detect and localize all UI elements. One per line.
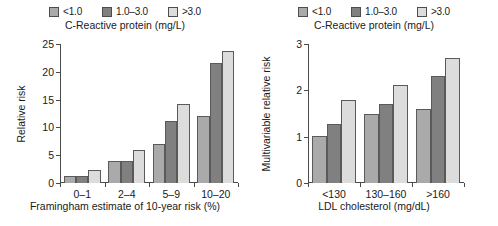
bar [393, 85, 408, 183]
chart-panel-left: <1.0 1.0–3.0 >3.0 C-Reactive protein (mg… [0, 0, 250, 226]
y-axis-label: Multivariable relative risk [260, 56, 272, 171]
bar [88, 170, 100, 183]
x-axis-tick [60, 183, 61, 187]
legend-item-label: <1.0 [63, 7, 82, 17]
bar [165, 121, 177, 183]
legend-swatch-icon [49, 7, 59, 17]
legend-item-label: >3.0 [431, 7, 450, 17]
legend-swatch-icon [417, 7, 427, 17]
figure: <1.0 1.0–3.0 >3.0 C-Reactive protein (mg… [0, 0, 498, 226]
legend-item-label: 1.0–3.0 [116, 7, 148, 17]
x-axis-tick [194, 183, 195, 187]
y-axis-tick-label: 10 [42, 122, 54, 133]
legend-item: <1.0 [49, 7, 82, 17]
y-axis-tick [56, 100, 60, 101]
legend-item: 1.0–3.0 [351, 7, 397, 17]
plot-area-left: 05101520250–12–45–910–20 [60, 44, 238, 183]
x-axis-tick-label: 0–1 [73, 189, 91, 200]
bar [445, 58, 460, 183]
bar [431, 76, 446, 183]
y-axis-tick-label: 20 [42, 67, 54, 78]
y-axis-tick-label: 15 [42, 94, 54, 105]
bar [153, 144, 165, 183]
legend-swatch-icon [168, 7, 178, 17]
x-axis-tick-label: 5–9 [162, 189, 180, 200]
x-axis-tick [412, 183, 413, 187]
y-axis-tick-label: 25 [42, 39, 54, 50]
legend-swatch-icon [102, 7, 112, 17]
legend-item: >3.0 [417, 7, 450, 17]
x-axis-tick [464, 183, 465, 187]
y-axis-tick-label: 5 [48, 150, 54, 161]
bar [222, 51, 234, 183]
bar [312, 136, 327, 183]
y-axis-tick [304, 90, 308, 91]
bar [364, 114, 379, 184]
x-axis-tick-label: 2–4 [118, 189, 136, 200]
chart-panel-right: <1.0 1.0–3.0 >3.0 C-Reactive protein (mg… [250, 0, 498, 226]
bar [177, 104, 189, 183]
y-axis-tick [304, 137, 308, 138]
y-axis-label: Relative risk [14, 85, 26, 142]
y-axis-tick [56, 44, 60, 45]
legend-item: 1.0–3.0 [102, 7, 148, 17]
y-axis-tick [56, 127, 60, 128]
bar [341, 100, 356, 183]
y-axis-tick-label: 0 [48, 178, 54, 189]
x-axis-tick-label: <130 [322, 189, 346, 200]
y-axis-line [60, 44, 61, 183]
x-axis-tick [105, 183, 106, 187]
legend-item-label: 1.0–3.0 [365, 7, 397, 17]
y-axis-tick-label: 1 [296, 131, 302, 142]
x-axis-tick [149, 183, 150, 187]
bar [121, 161, 133, 183]
x-axis-label: LDL cholesterol (mg/dL) [250, 200, 498, 212]
legend-title: C-Reactive protein (mg/L) [0, 19, 250, 31]
x-axis-tick-label: 130–160 [366, 189, 407, 200]
bar [210, 63, 222, 183]
legend-right: <1.0 1.0–3.0 >3.0 [250, 5, 498, 18]
y-axis-line [308, 44, 309, 183]
legend-item: >3.0 [168, 7, 201, 17]
x-axis-tick [238, 183, 239, 187]
legend-item: <1.0 [298, 7, 331, 17]
plot-area-right: 0123<130130–160>160 [308, 44, 464, 183]
legend-item-label: <1.0 [312, 7, 331, 17]
y-axis-tick [56, 155, 60, 156]
x-axis-tick-label: >160 [426, 189, 450, 200]
bar [133, 150, 145, 183]
bar [327, 124, 342, 183]
legend-left: <1.0 1.0–3.0 >3.0 [0, 5, 250, 18]
x-axis-tick [308, 183, 309, 187]
x-axis-tick [360, 183, 361, 187]
bar [76, 176, 88, 183]
y-axis-tick-label: 2 [296, 85, 302, 96]
legend-item-label: >3.0 [182, 7, 201, 17]
legend-swatch-icon [351, 7, 361, 17]
bar [64, 176, 76, 183]
bar [416, 109, 431, 183]
y-axis-tick-label: 3 [296, 39, 302, 50]
x-axis-label: Framingham estimate of 10-year risk (%) [0, 200, 250, 212]
bar [379, 104, 394, 183]
legend-title: C-Reactive protein (mg/L) [250, 19, 498, 31]
y-axis-tick [304, 44, 308, 45]
x-axis-tick-label: 10–20 [201, 189, 230, 200]
bar [108, 161, 120, 183]
bar [197, 116, 209, 183]
legend-swatch-icon [298, 7, 308, 17]
y-axis-tick [56, 72, 60, 73]
y-axis-tick-label: 0 [296, 178, 302, 189]
